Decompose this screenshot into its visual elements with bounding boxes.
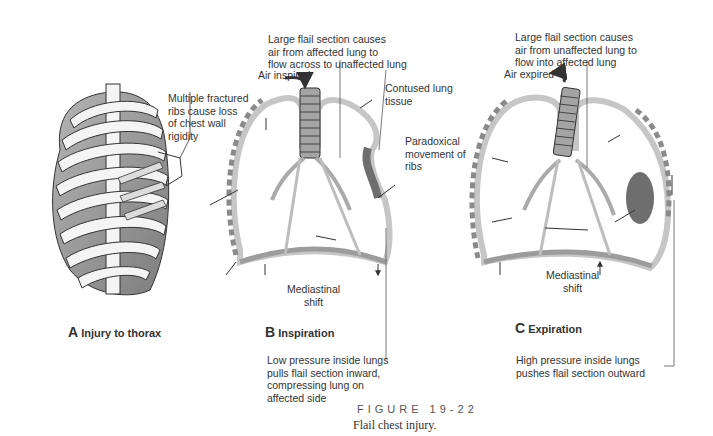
contused-tissue-label: Contused lung tissue — [385, 82, 453, 107]
low-pressure-note: Low pressure inside lungs pulls flail se… — [267, 354, 388, 404]
paradoxical-movement-label: Paradoxical movement of ribs — [405, 135, 466, 173]
figure-number: FIGURE 19-22 — [357, 403, 478, 415]
panel-b-letter: B — [265, 324, 275, 340]
panel-a-title: AInjury to thorax — [68, 324, 161, 340]
panel-b-title: BInspiration — [265, 324, 334, 340]
fractured-ribs-label: Multiple fractured ribs cause loss of ch… — [168, 92, 249, 142]
panel-a-title-text: Injury to thorax — [81, 327, 161, 339]
figure-caption: Flail chest injury. — [353, 418, 437, 433]
expiration-mediastinal-shift-label: Mediastinal shift — [546, 269, 599, 294]
panel-c-title-text: Expiration — [528, 323, 582, 335]
panel-c-title: CExpiration — [515, 320, 582, 336]
panel-a-letter: A — [68, 324, 78, 340]
air-inspired-label: Air inspired — [258, 69, 311, 82]
inspiration-mediastinal-shift-label: Mediastinal shift — [287, 283, 340, 308]
panel-c-letter: C — [515, 320, 525, 336]
high-pressure-note: High pressure inside lungs pushes flail … — [516, 354, 645, 379]
inspiration-airflow-label: Large flail section causes air from affe… — [268, 33, 407, 71]
air-expired-label: Air expired — [504, 68, 554, 81]
panel-b-title-text: Inspiration — [278, 327, 334, 339]
expiration-airflow-label: Large flail section causes air from unaf… — [515, 31, 637, 69]
